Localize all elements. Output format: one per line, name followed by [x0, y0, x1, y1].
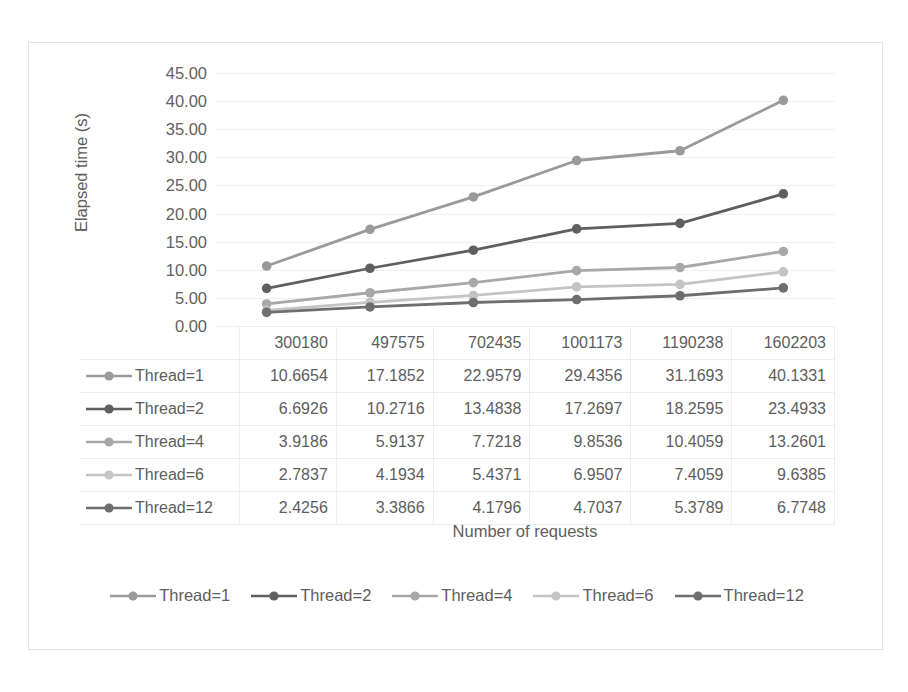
table-column-header: 300180 — [240, 327, 337, 360]
table-header-row: 300180497575702435100117311902381602203 — [79, 327, 835, 360]
table-row: Thread=110.665417.185222.957929.435631.1… — [79, 360, 835, 393]
y-tick-label: 10.00 — [125, 262, 207, 279]
data-point — [262, 308, 272, 318]
table-cell: 18.2595 — [631, 393, 732, 426]
chart-legend: Thread=1Thread=2Thread=4Thread=6Thread=1… — [29, 586, 884, 605]
series-key-icon — [85, 436, 133, 448]
legend-item[interactable]: Thread=12 — [674, 586, 804, 605]
table-cell: 9.6385 — [732, 459, 835, 492]
data-point — [469, 278, 479, 288]
table-cell: 7.7218 — [433, 426, 530, 459]
data-point — [469, 245, 479, 255]
table-cell: 13.2601 — [732, 426, 835, 459]
table-head: 300180497575702435100117311902381602203 — [79, 327, 835, 360]
legend-label: Thread=4 — [441, 586, 512, 605]
data-point — [572, 282, 582, 292]
table-cell: 40.1331 — [732, 360, 835, 393]
table-cell: 4.1934 — [336, 459, 433, 492]
table-series-label-cell: Thread=2 — [79, 393, 240, 426]
chart-data-table: 300180497575702435100117311902381602203 … — [79, 326, 835, 525]
table-row: Thread=122.42563.38664.17964.70375.37896… — [79, 492, 835, 525]
table-corner-cell — [79, 327, 240, 360]
series-key-icon — [85, 403, 133, 415]
plot-region: Elapsed time (s) 45.0040.0035.0030.0025.… — [29, 43, 884, 343]
chart-frame: Elapsed time (s) 45.0040.0035.0030.0025.… — [28, 42, 883, 650]
table-cell: 7.4059 — [631, 459, 732, 492]
table-series-label-cell: Thread=1 — [79, 360, 240, 393]
data-point — [779, 96, 789, 106]
table-cell: 17.1852 — [336, 360, 433, 393]
legend-label: Thread=12 — [724, 586, 804, 605]
legend-item[interactable]: Thread=4 — [391, 586, 512, 605]
table-cell: 6.7748 — [732, 492, 835, 525]
legend-key-icon — [532, 590, 580, 602]
table-cell: 31.1693 — [631, 360, 732, 393]
table-series-label-cell: Thread=12 — [79, 492, 240, 525]
data-point — [779, 247, 789, 257]
table-cell: 2.7837 — [240, 459, 337, 492]
legend-key-icon — [250, 590, 298, 602]
legend-item[interactable]: Thread=2 — [250, 586, 371, 605]
series-name: Thread=2 — [135, 400, 204, 418]
y-tick-label: 15.00 — [125, 233, 207, 250]
legend-label: Thread=6 — [582, 586, 653, 605]
table-cell: 10.4059 — [631, 426, 732, 459]
data-point — [365, 288, 375, 298]
data-point — [469, 192, 479, 202]
data-point — [365, 263, 375, 273]
series-lines — [215, 73, 835, 326]
table-row: Thread=62.78374.19345.43716.95077.40599.… — [79, 459, 835, 492]
data-point — [675, 280, 685, 290]
data-point — [779, 267, 789, 277]
y-tick-label: 45.00 — [125, 65, 207, 82]
data-point — [365, 302, 375, 312]
series-name: Thread=4 — [135, 433, 204, 451]
legend-label: Thread=2 — [300, 586, 371, 605]
table-cell: 3.9186 — [240, 426, 337, 459]
table-cell: 23.4933 — [732, 393, 835, 426]
table-cell: 5.3789 — [631, 492, 732, 525]
table-cell: 13.4838 — [433, 393, 530, 426]
data-point — [572, 295, 582, 305]
table-cell: 29.4356 — [530, 360, 631, 393]
series-name: Thread=12 — [135, 499, 213, 517]
data-point — [675, 219, 685, 229]
x-axis-title: Number of requests — [215, 522, 835, 541]
legend-item[interactable]: Thread=1 — [109, 586, 230, 605]
table-row: Thread=43.91865.91377.72189.853610.40591… — [79, 426, 835, 459]
table-series-label-cell: Thread=4 — [79, 426, 240, 459]
table-column-header: 1190238 — [631, 327, 732, 360]
table-cell: 2.4256 — [240, 492, 337, 525]
table-cell: 6.9507 — [530, 459, 631, 492]
data-point — [572, 156, 582, 166]
y-tick-label: 20.00 — [125, 205, 207, 222]
data-point — [365, 225, 375, 235]
table-column-header: 1602203 — [732, 327, 835, 360]
table-cell: 17.2697 — [530, 393, 631, 426]
data-point — [675, 146, 685, 156]
legend-item[interactable]: Thread=6 — [532, 586, 653, 605]
data-point — [572, 224, 582, 234]
y-tick-label: 25.00 — [125, 177, 207, 194]
series-name: Thread=1 — [135, 367, 204, 385]
legend-key-icon — [109, 590, 157, 602]
table-cell: 3.3866 — [336, 492, 433, 525]
table-column-header: 702435 — [433, 327, 530, 360]
table-cell: 10.2716 — [336, 393, 433, 426]
data-point — [469, 298, 479, 308]
series-name: Thread=6 — [135, 466, 204, 484]
table-cell: 9.8536 — [530, 426, 631, 459]
series-key-icon — [85, 370, 133, 382]
table-cell: 4.1796 — [433, 492, 530, 525]
table-column-header: 1001173 — [530, 327, 631, 360]
data-point — [675, 291, 685, 301]
table-cell: 10.6654 — [240, 360, 337, 393]
table-cell: 5.9137 — [336, 426, 433, 459]
legend-key-icon — [674, 590, 722, 602]
series-key-icon — [85, 469, 133, 481]
series-thread-12 — [262, 283, 788, 317]
table-row: Thread=26.692610.271613.483817.269718.25… — [79, 393, 835, 426]
legend-label: Thread=1 — [159, 586, 230, 605]
table-cell: 6.6926 — [240, 393, 337, 426]
y-axis-title: Elapsed time (s) — [72, 83, 91, 263]
